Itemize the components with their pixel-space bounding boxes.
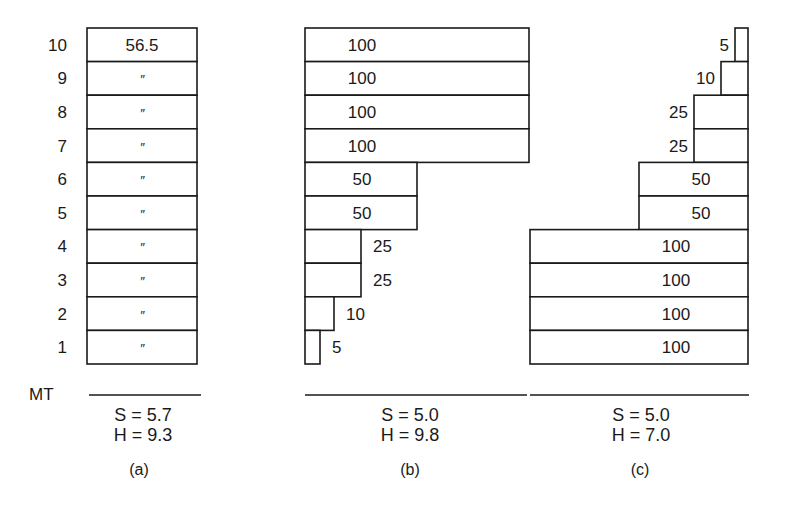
bar-value-label: 50 <box>353 204 372 223</box>
bar-value-label: 25 <box>669 103 688 122</box>
level-label: 5 <box>58 204 67 223</box>
bar-c-level-2 <box>530 297 748 331</box>
bar-value-label: 5 <box>332 338 341 357</box>
bar-value-label: 100 <box>662 305 690 324</box>
ditto-mark: ″ <box>140 308 145 323</box>
ditto-mark: ″ <box>140 173 145 188</box>
bar-b-level-8 <box>305 95 529 129</box>
level-label: 1 <box>58 338 67 357</box>
level-label: 4 <box>58 237 67 256</box>
level-label: 7 <box>58 137 67 156</box>
bar-value-label: 10 <box>346 305 365 324</box>
stat-s: S = 5.7 <box>114 405 172 425</box>
baseline-label: MT <box>29 385 54 404</box>
bar-value-label: 100 <box>348 103 376 122</box>
bar-value-label: 100 <box>662 237 690 256</box>
bar-b-level-7 <box>305 129 529 163</box>
bar-value-label: 100 <box>348 137 376 156</box>
panel-caption: (b) <box>400 461 420 478</box>
level-label: 6 <box>58 170 67 189</box>
level-axis-labels: 12345678910 <box>48 36 67 357</box>
bar-value-label: 25 <box>373 271 392 290</box>
level-label: 3 <box>58 271 67 290</box>
ditto-mark: ″ <box>140 240 145 255</box>
stat-h: H = 9.8 <box>381 425 440 445</box>
panel-caption: (a) <box>129 461 149 478</box>
bar-c-level-8 <box>694 95 748 129</box>
panel-a: 56.5″″″″″″″″″S = 5.7H = 9.3(a) <box>87 28 201 478</box>
panel-c: 51025255050100100100100S = 5.0H = 7.0(c) <box>530 28 749 478</box>
stat-h: H = 7.0 <box>612 425 671 445</box>
bar-value-label: 50 <box>353 170 372 189</box>
ditto-mark: ″ <box>140 274 145 289</box>
stat-s: S = 5.0 <box>381 405 439 425</box>
bar-value-label: 50 <box>692 170 711 189</box>
level-label: 10 <box>48 36 67 55</box>
stacked-bar-diagram: 12345678910 MT 56.5″″″″″″″″″S = 5.7H = 9… <box>0 0 785 508</box>
stat-h: H = 9.3 <box>114 425 173 445</box>
bar-c-level-4 <box>530 230 748 264</box>
bar-value-label: 56.5 <box>125 36 158 55</box>
bar-value-label: 100 <box>348 36 376 55</box>
bar-b-level-9 <box>305 62 529 96</box>
bar-value-label: 10 <box>696 69 715 88</box>
bar-b-level-3 <box>305 263 361 297</box>
panel-b: 10010010010050502525105S = 5.0H = 9.8(b) <box>305 28 529 478</box>
bar-b-level-2 <box>305 297 334 331</box>
bar-c-level-7 <box>694 129 748 163</box>
bar-b-level-1 <box>305 330 320 364</box>
bar-value-label: 100 <box>348 69 376 88</box>
stat-s: S = 5.0 <box>612 405 670 425</box>
bar-b-level-10 <box>305 28 529 62</box>
ditto-mark: ″ <box>140 341 145 356</box>
ditto-mark: ″ <box>140 140 145 155</box>
bar-value-label: 50 <box>692 204 711 223</box>
bar-value-label: 5 <box>720 36 729 55</box>
bar-value-label: 25 <box>373 237 392 256</box>
ditto-mark: ″ <box>140 106 145 121</box>
panel-caption: (c) <box>631 461 650 478</box>
bar-value-label: 100 <box>662 271 690 290</box>
level-label: 2 <box>58 305 67 324</box>
bar-c-level-10 <box>735 28 748 62</box>
level-label: 9 <box>58 69 67 88</box>
bar-value-label: 100 <box>662 338 690 357</box>
bar-b-level-4 <box>305 230 361 264</box>
bar-c-level-9 <box>721 62 748 96</box>
bar-c-level-3 <box>530 263 748 297</box>
ditto-mark: ″ <box>140 72 145 87</box>
bar-value-label: 25 <box>669 137 688 156</box>
bar-c-level-1 <box>530 330 748 364</box>
level-label: 8 <box>58 103 67 122</box>
ditto-mark: ″ <box>140 207 145 222</box>
